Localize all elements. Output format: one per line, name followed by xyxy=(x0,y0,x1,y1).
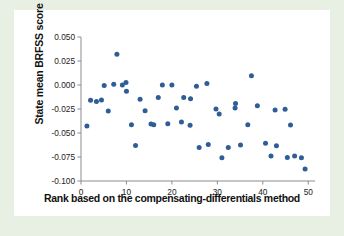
y-tick-label: -0.100 xyxy=(51,176,75,186)
figure-root: State mean BRFSS score 0.0500.0250.000-0… xyxy=(0,0,344,236)
data-point xyxy=(169,83,174,88)
data-point xyxy=(217,111,222,116)
data-point xyxy=(268,154,273,159)
y-tick-label: -0.050 xyxy=(51,128,75,138)
chart-panel: State mean BRFSS score 0.0500.0250.000-0… xyxy=(14,10,330,216)
data-point xyxy=(179,119,184,124)
data-point xyxy=(111,82,116,87)
data-point xyxy=(219,155,224,160)
data-point xyxy=(188,96,193,101)
data-point xyxy=(102,83,107,88)
data-point xyxy=(285,155,290,160)
data-point xyxy=(233,106,238,111)
data-point xyxy=(283,107,288,112)
data-point xyxy=(238,143,243,148)
data-point xyxy=(165,121,170,126)
data-point xyxy=(263,141,268,146)
data-point xyxy=(94,99,99,104)
data-point xyxy=(292,154,297,159)
data-point xyxy=(151,122,156,127)
data-point xyxy=(273,107,278,112)
data-point xyxy=(143,108,148,113)
data-point xyxy=(255,103,260,108)
y-tick-label: 0.025 xyxy=(54,56,75,66)
scatter-plot: 0.0500.0250.000-0.025-0.050-0.075-0.1000… xyxy=(14,10,330,216)
data-point xyxy=(156,95,161,100)
data-point xyxy=(124,89,129,94)
data-point xyxy=(88,98,93,103)
data-point xyxy=(274,143,279,148)
y-tick-label: -0.025 xyxy=(51,104,75,114)
y-tick-label: 0.050 xyxy=(54,32,75,42)
data-point xyxy=(249,73,254,78)
x-axis-label: Rank based on the compensating-different… xyxy=(14,192,330,204)
data-point xyxy=(194,84,199,89)
data-point xyxy=(133,143,138,148)
data-point xyxy=(129,122,134,127)
data-point xyxy=(213,107,218,112)
data-point xyxy=(188,123,193,128)
data-point xyxy=(160,83,165,88)
y-tick-label: -0.075 xyxy=(51,152,75,162)
data-point xyxy=(206,142,211,147)
data-point xyxy=(226,145,231,150)
data-point xyxy=(204,81,209,86)
data-point xyxy=(233,101,238,106)
data-point xyxy=(303,167,308,172)
data-point xyxy=(197,145,202,150)
plot-wrapper: State mean BRFSS score 0.0500.0250.000-0… xyxy=(14,10,330,216)
data-point xyxy=(99,97,104,102)
data-point xyxy=(106,109,111,114)
data-point xyxy=(174,106,179,111)
data-point xyxy=(138,97,143,102)
data-point xyxy=(299,155,304,160)
data-point xyxy=(245,122,250,127)
y-tick-label: 0.000 xyxy=(54,80,75,90)
data-point xyxy=(288,123,293,128)
data-point xyxy=(114,52,119,57)
data-point xyxy=(123,80,128,85)
data-point xyxy=(181,95,186,100)
data-point xyxy=(84,123,89,128)
